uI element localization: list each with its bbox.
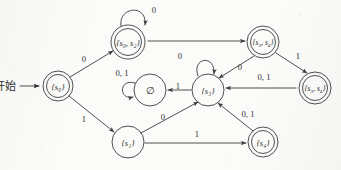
edge-empty-self-loop <box>122 82 135 97</box>
edge-label-s0s2-self: 0 <box>152 5 156 15</box>
state-label-s3s4b: {s₃, s₄} <box>304 84 325 93</box>
edge-s0-to-s1 <box>69 96 114 132</box>
state-diagram-svg: {s₀} {s₀, s₂} ∅ {s₃} {s₃, s₄} {s₃, s₄} {… <box>0 0 341 170</box>
state-label-s1: {s₁} <box>121 138 135 148</box>
edge-label-s3s4a-s3s4b: 1 <box>296 51 300 61</box>
edge-label-s3-empty: 1 <box>176 81 180 91</box>
state-label-s4: {s₄} <box>256 138 270 148</box>
edge-label-s1-s4: 1 <box>195 129 199 139</box>
edge-label-s4-s3: 0, 1 <box>242 109 255 119</box>
edge-label-s1-s3: 0 <box>161 112 165 122</box>
edge-s3s4a-to-s3s4b <box>276 53 307 73</box>
edge-s0-to-s0s2 <box>70 51 113 77</box>
start-label: 开始 <box>0 79 16 92</box>
edge-label-s0-s0s2: 0 <box>82 54 86 64</box>
edge-label-s3s4b-s3: 0, 1 <box>258 72 271 82</box>
edge-label-s3-self: 0 <box>178 51 182 61</box>
edge-label-s0-s1: 1 <box>82 114 86 124</box>
edge-s3-self-loop <box>197 60 214 76</box>
state-label-s0s2: {s₀, s₂} <box>116 38 140 48</box>
edge-s0s2-self-loop <box>121 10 145 26</box>
edge-label-empty-self: 0, 1 <box>116 68 129 78</box>
edge-s3s4a-to-s3 <box>219 56 254 78</box>
state-label-s0: {s₀} <box>51 82 65 92</box>
edge-label-s3s4a-s3: 0 <box>238 62 242 72</box>
state-label-s3: {s₃} <box>201 86 215 96</box>
state-label-empty: ∅ <box>146 85 155 96</box>
diagram-canvas: {s₀} {s₀, s₂} ∅ {s₃} {s₃, s₄} {s₃, s₄} {… <box>0 0 341 170</box>
edge-s1-to-s3 <box>141 102 198 133</box>
state-label-s3s4a: {s₃, s₄} <box>252 38 273 47</box>
